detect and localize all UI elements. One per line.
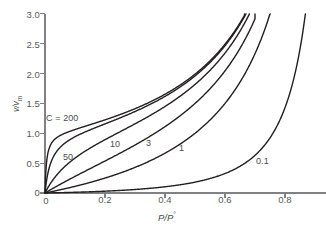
bet-isotherm-figure: 3.0 2.5 2.0 1.5 1.0 0.5 0 0 0.2 0.4 0.6 …: [0, 0, 326, 232]
curve-3: [45, 14, 255, 193]
curve-label-c01: 0.1: [256, 156, 269, 166]
y-tick-label-3: 3.0: [14, 9, 40, 20]
curve-0p1: [45, 14, 305, 193]
axis-ticks: [40, 14, 285, 198]
axis-lines: [45, 14, 326, 193]
x-axis-title: P/P°: [158, 211, 176, 223]
x-tick-label-0: 0: [34, 195, 58, 206]
x-tick-label-06: 0.6: [213, 194, 237, 205]
y-axis-title-subscript: m: [16, 96, 23, 101]
curve-label-c3: 3: [146, 138, 151, 148]
y-tick-label-05: 0.5: [14, 158, 40, 169]
curve-label-c10: 10: [110, 139, 120, 149]
y-tick-label-25: 2.5: [14, 39, 40, 50]
x-tick-label-08: 0.8: [273, 194, 297, 205]
y-axis-title: v/vm: [11, 96, 23, 112]
curve-200: [45, 14, 245, 193]
isotherm-curves: [45, 14, 305, 193]
x-axis-title-degree: °: [173, 211, 176, 218]
x-tick-label-02: 0.2: [93, 194, 117, 205]
curve-1: [45, 14, 270, 193]
curve-label-c50: 50: [63, 152, 73, 162]
y-tick-label-2: 2.0: [14, 69, 40, 80]
curve-label-c1: 1: [179, 143, 184, 153]
y-tick-label-1: 1.0: [14, 128, 40, 139]
curve-label-c200: C = 200: [46, 113, 78, 123]
y-axis-title-text: v/v: [11, 101, 21, 112]
x-axis-title-text: P/P: [158, 212, 173, 223]
x-tick-label-04: 0.4: [153, 194, 177, 205]
